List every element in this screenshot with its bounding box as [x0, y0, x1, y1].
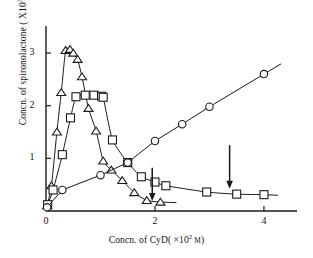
x-axis-title: Concn. of CyD( ×102 M) — [0, 233, 313, 245]
data-point-triangle — [84, 105, 93, 112]
data-point-circle — [97, 172, 104, 179]
data-series-group — [43, 46, 281, 211]
data-point-square — [99, 93, 107, 101]
y-axis-title: Concn. of spironolactone ( X103 M) — [16, 0, 28, 146]
x-tick-label: 0 — [38, 215, 54, 226]
data-point-square — [108, 136, 116, 144]
data-point-circle — [260, 70, 267, 77]
data-point-square — [81, 91, 89, 99]
data-point-circle — [59, 186, 66, 193]
arrow-square-endpoint — [226, 145, 233, 189]
data-point-square — [162, 182, 170, 190]
y-tick-label: 1 — [24, 151, 40, 162]
data-point-square — [58, 151, 66, 159]
x-tick-label: 4 — [256, 215, 272, 226]
data-point-circle — [124, 159, 131, 166]
data-point-square — [203, 188, 211, 196]
data-point-triangle — [52, 128, 61, 135]
arrow-triangle-endpoint-head — [149, 193, 156, 201]
data-point-triangle — [99, 157, 108, 164]
data-point-circle — [151, 137, 158, 144]
data-point-square — [49, 186, 57, 194]
data-point-square — [67, 114, 75, 122]
y-tick-label: 3 — [24, 46, 40, 57]
data-point-circle — [206, 103, 213, 110]
annotations-group — [149, 145, 233, 201]
y-tick-label: 2 — [24, 99, 40, 110]
data-point-square — [137, 173, 145, 181]
data-point-square — [260, 191, 268, 199]
y-axis-exponent: 3 — [16, 0, 23, 2]
x-axis-title-close: ) — [201, 235, 204, 245]
data-point-square — [90, 91, 98, 99]
square-series — [44, 91, 278, 209]
data-point-square — [233, 190, 241, 198]
axes — [46, 26, 297, 211]
chart-figure: Concn. of spironolactone ( X103 M) Concn… — [0, 0, 313, 258]
data-point-circle — [43, 204, 50, 211]
data-point-triangle — [77, 73, 86, 80]
data-point-triangle — [142, 197, 151, 204]
data-point-square — [72, 93, 80, 101]
data-point-triangle — [57, 89, 66, 96]
x-tick-label: 2 — [147, 215, 163, 226]
data-point-triangle — [92, 127, 101, 134]
arrow-square-endpoint-head — [226, 181, 233, 189]
x-axis-title-prefix: Concn. of CyD( ×10 — [109, 235, 189, 245]
data-point-circle — [179, 120, 186, 127]
x-axis-unit: M — [192, 236, 201, 245]
